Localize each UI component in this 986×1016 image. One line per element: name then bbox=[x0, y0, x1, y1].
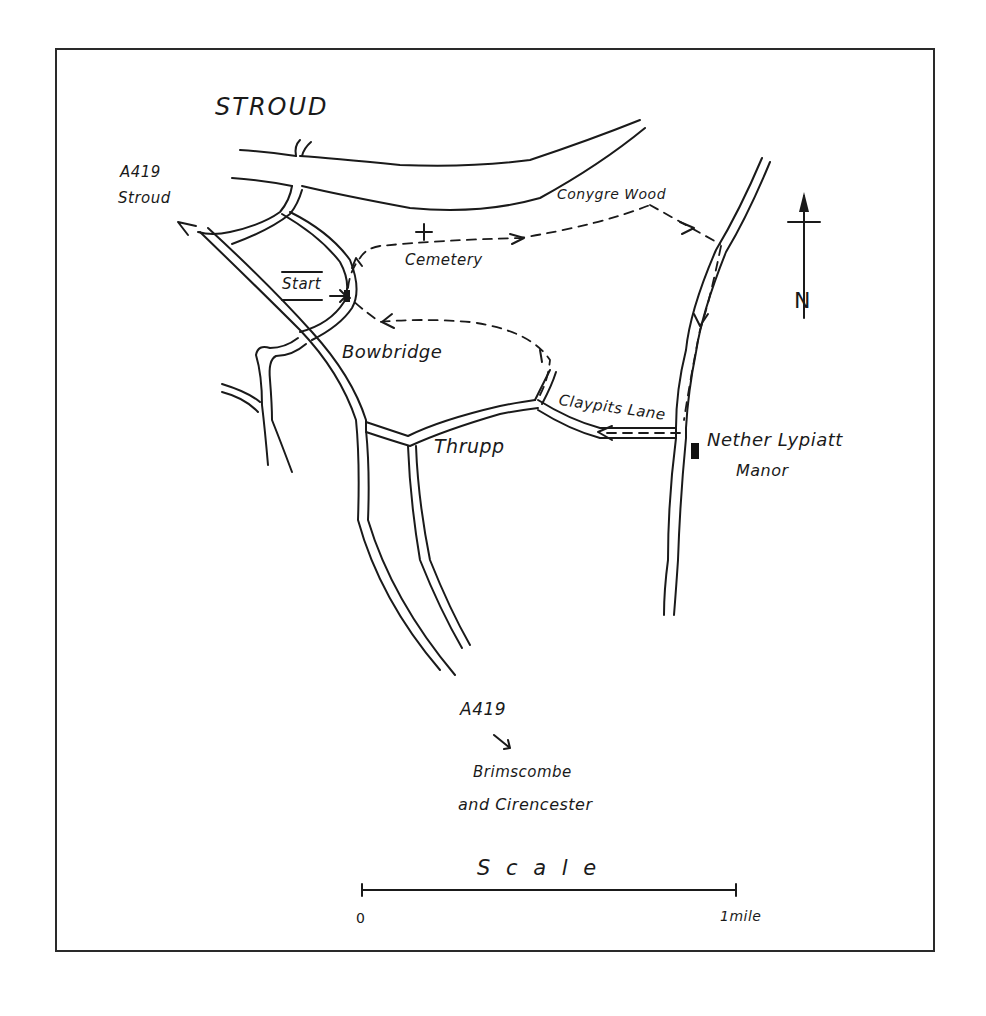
label-nether-lypiatt: Nether Lypiatt bbox=[707, 430, 843, 451]
road-west bbox=[222, 338, 306, 472]
scale-end-label: 1mile bbox=[720, 908, 761, 924]
label-a419-north-dest: Stroud bbox=[118, 190, 171, 207]
label-start: Start bbox=[282, 276, 321, 293]
label-conygre-wood: Conygre Wood bbox=[557, 186, 666, 202]
label-a419-south: A419 bbox=[460, 700, 506, 720]
label-manor: Manor bbox=[736, 462, 789, 480]
cross-icon bbox=[416, 224, 432, 240]
label-brimscombe: Brimscombe bbox=[473, 764, 572, 781]
scale-bar bbox=[362, 884, 736, 896]
road-east bbox=[664, 158, 770, 615]
scale-start-label: 0 bbox=[356, 910, 365, 926]
scale-title: S c a l e bbox=[477, 856, 597, 880]
label-cemetery: Cemetery bbox=[405, 252, 483, 269]
label-a419-north: A419 bbox=[120, 164, 161, 181]
label-stroud: STROUD bbox=[215, 94, 329, 122]
label-bowbridge: Bowbridge bbox=[342, 342, 442, 363]
building-icon bbox=[691, 443, 699, 459]
arrow-south-icon bbox=[494, 735, 510, 749]
label-thrupp: Thrupp bbox=[434, 436, 505, 458]
label-cirencester: and Cirencester bbox=[458, 796, 593, 814]
label-north: N bbox=[794, 288, 810, 313]
